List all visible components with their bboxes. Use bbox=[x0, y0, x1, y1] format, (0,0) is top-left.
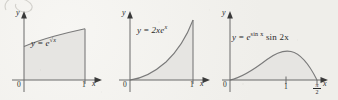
equation-3-eq: = bbox=[239, 32, 244, 42]
origin-label-2: 0 bbox=[123, 80, 127, 89]
y-axis-label-3: y bbox=[222, 8, 226, 17]
x-tick-label-1: 1 bbox=[82, 80, 86, 89]
y-axis-label-2: y bbox=[122, 8, 126, 17]
equation-2-coefficient: 2x bbox=[151, 25, 160, 35]
y-axis-arrow-2 bbox=[127, 11, 133, 19]
equation-1-lhs: y bbox=[31, 38, 35, 48]
y-axis-label-1: y bbox=[16, 8, 20, 17]
x-tick-label-2: 1 bbox=[190, 80, 194, 89]
equation-1-eq: = bbox=[38, 38, 43, 48]
equation-label-1: y = e√x bbox=[31, 36, 56, 48]
y-axis-arrow-3 bbox=[227, 11, 233, 19]
origin-label-1: 0 bbox=[17, 80, 21, 89]
x-axis-label-1: x bbox=[92, 79, 96, 88]
equation-label-3: y = esin x sin 2x bbox=[232, 30, 289, 42]
equation-3-exponent: sin x bbox=[251, 30, 264, 37]
x-axis-label-2: x bbox=[200, 79, 204, 88]
equation-3-tail: sin 2x bbox=[266, 32, 289, 42]
equation-2-exponent: x bbox=[165, 23, 168, 30]
equation-2-eq: = bbox=[144, 25, 149, 35]
pi-over-2-denominator: 2 bbox=[311, 89, 323, 95]
figure-exp-sqrt-x: y x 0 1 y = e√x bbox=[0, 0, 112, 100]
y-axis-arrow-1 bbox=[21, 11, 27, 19]
origin-label-3: 0 bbox=[223, 80, 227, 89]
equation-label-2: y = 2xex bbox=[137, 23, 167, 35]
equation-3-lhs: y bbox=[232, 32, 236, 42]
figure-2x-e-x: y x 0 1 y = 2xex bbox=[112, 0, 218, 100]
equation-1-exponent: √x bbox=[50, 36, 57, 43]
equation-2-lhs: y bbox=[137, 25, 141, 35]
figure-row: y x 0 1 y = e√x y x 0 1 y = bbox=[0, 0, 338, 100]
x-tick-label-3-pi-over-2: π 2 bbox=[311, 82, 323, 95]
x-tick-label-3-one: 1 bbox=[284, 82, 288, 91]
figure-e-sinx-sin2x: y x 0 1 π 2 y = esin x sin 2x bbox=[218, 0, 338, 100]
x-axis-label-3: x bbox=[323, 79, 327, 88]
